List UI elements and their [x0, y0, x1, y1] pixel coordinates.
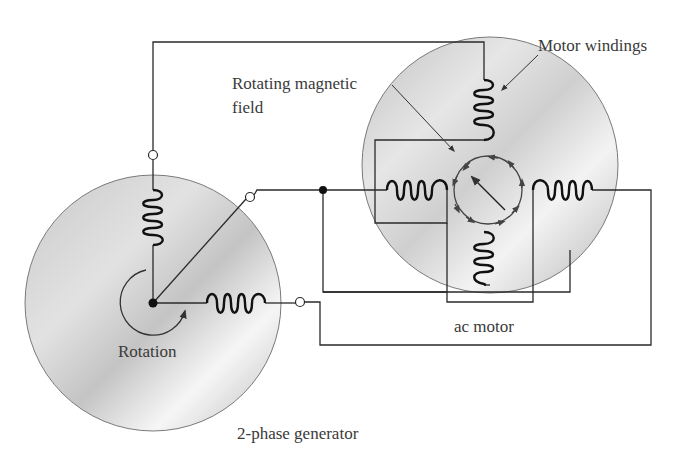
label-rotating-field-line2: field: [232, 98, 263, 118]
terminal-phase-a: [149, 151, 158, 160]
terminal-common: [246, 193, 255, 202]
diagram-canvas: Motor windings Rotating magnetic field a…: [0, 0, 696, 464]
generator-center-dot: [149, 299, 158, 308]
terminal-phase-b: [296, 298, 305, 307]
label-rotating-field-line1: Rotating magnetic: [232, 74, 357, 94]
label-rotation: Rotation: [118, 342, 177, 362]
label-generator: 2-phase generator: [237, 424, 358, 444]
junction-common: [319, 186, 327, 194]
motor-disc: [362, 37, 618, 293]
label-motor-windings: Motor windings: [538, 36, 647, 56]
label-ac-motor: ac motor: [454, 317, 514, 337]
